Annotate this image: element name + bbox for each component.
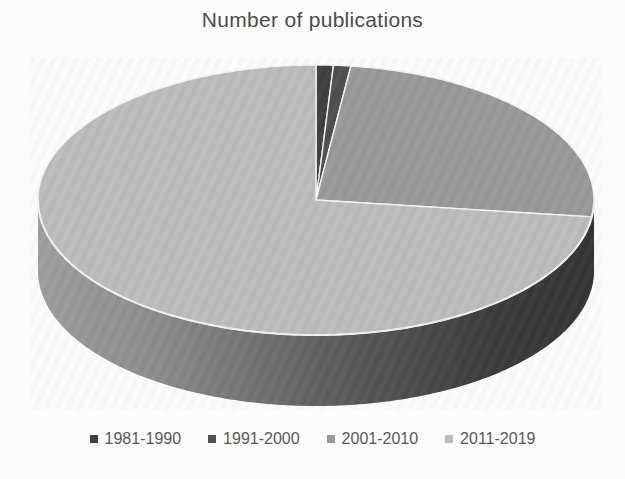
legend-item-1991-2000: 1991-2000 bbox=[208, 430, 300, 448]
legend-marker bbox=[208, 435, 216, 443]
legend-marker bbox=[445, 435, 453, 443]
legend-item-1981-1990: 1981-1990 bbox=[90, 430, 182, 448]
legend-item-2011-2019: 2011-2019 bbox=[445, 430, 535, 448]
legend-label: 2001-2010 bbox=[342, 430, 419, 448]
pie-slice-2 bbox=[316, 66, 594, 217]
legend-label: 1991-2000 bbox=[223, 430, 300, 448]
pie-chart-area bbox=[0, 0, 625, 479]
legend-label: 2011-2019 bbox=[460, 430, 535, 448]
legend-label: 1981-1990 bbox=[105, 430, 182, 448]
chart-legend: 1981-1990 1991-2000 2001-2010 2011-2019 bbox=[0, 430, 625, 448]
legend-item-2001-2010: 2001-2010 bbox=[327, 430, 419, 448]
legend-marker bbox=[90, 435, 98, 443]
legend-marker bbox=[327, 435, 335, 443]
pie-chart-svg bbox=[0, 0, 625, 479]
